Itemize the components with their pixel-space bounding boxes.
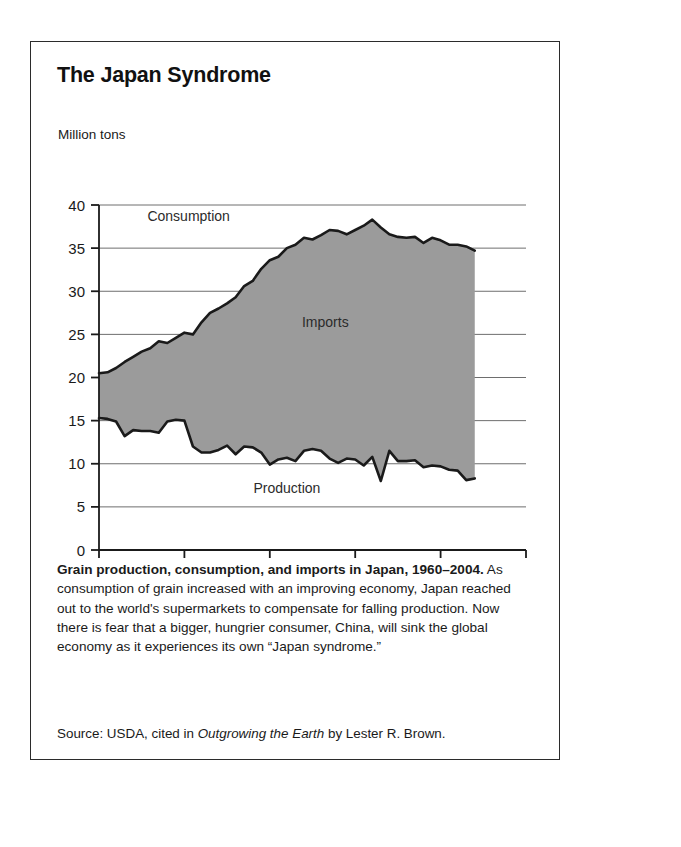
y-tick-label: 40 — [68, 197, 85, 214]
grain-area-chart: 0510152025303540 19601970198019902000201… — [31, 152, 561, 562]
figure-caption: Grain production, consumption, and impor… — [57, 560, 531, 656]
source-work-title: Outgrowing the Earth — [198, 726, 325, 741]
imports-area-fill — [99, 220, 475, 481]
series-label-production: Production — [253, 480, 320, 496]
y-tick-label: 10 — [68, 455, 85, 472]
source-prefix: Source: USDA, cited in — [57, 726, 198, 741]
y-tick-label: 0 — [77, 542, 85, 559]
y-axis-ticks: 0510152025303540 — [68, 197, 99, 559]
y-tick-label: 5 — [77, 498, 85, 515]
page-title: The Japan Syndrome — [57, 63, 271, 88]
y-tick-label: 25 — [68, 326, 85, 343]
figure-frame: The Japan Syndrome Million tons 05101520… — [30, 41, 560, 760]
series-label-consumption: Consumption — [147, 208, 230, 224]
y-tick-label: 35 — [68, 240, 85, 257]
y-axis-unit-label: Million tons — [58, 127, 126, 142]
y-tick-label: 15 — [68, 412, 85, 429]
y-tick-label: 20 — [68, 369, 85, 386]
source-note: Source: USDA, cited in Outgrowing the Ea… — [57, 726, 537, 741]
source-suffix: by Lester R. Brown. — [324, 726, 445, 741]
y-tick-label: 30 — [68, 283, 85, 300]
chart-plot-area: 0510152025303540 19601970198019902000201… — [31, 152, 561, 562]
series-label-imports: Imports — [302, 314, 349, 330]
caption-lead: Grain production, consumption, and impor… — [57, 562, 484, 577]
